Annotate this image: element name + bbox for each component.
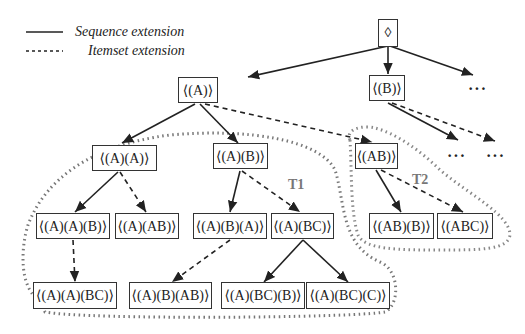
node-A: ⟨(A)⟩ xyxy=(178,77,218,103)
root-symbol: ◊ xyxy=(385,25,392,41)
node-A-AB: ⟨(A)(AB)⟩ xyxy=(115,213,179,239)
legend-sequence-label: Sequence extension xyxy=(75,24,184,40)
ellipsis-b-itemset: ··· xyxy=(486,147,505,165)
node-root: ◊ xyxy=(378,19,398,47)
node-A-BC-B: ⟨(A)(BC)(B)⟩ xyxy=(221,282,305,309)
node-AB-B: ⟨(AB)(B)⟩ xyxy=(369,213,434,239)
node-A-A: ⟨(A)(A)⟩ xyxy=(92,145,157,171)
subtree-t1-label: T1 xyxy=(288,177,304,193)
node-A-A-B: ⟨(A)(A)(B)⟩ xyxy=(36,213,110,239)
node-ABC: ⟨(ABC)⟩ xyxy=(437,213,493,239)
ellipsis-b-seq: ··· xyxy=(447,147,466,165)
node-A-B-A: ⟨(A)(B)(A)⟩ xyxy=(193,213,267,239)
node-AB-itemset: ⟨(AB)⟩ xyxy=(355,143,398,169)
node-A-BC-C: ⟨(A)(BC)(C)⟩ xyxy=(306,282,390,309)
node-A-BC: ⟨(A)(BC)⟩ xyxy=(271,213,334,239)
legend-itemset-label: Itemset extension xyxy=(88,43,185,59)
node-A-A-BC: ⟨(A)(A)(BC)⟩ xyxy=(33,282,117,309)
node-B: ⟨(B)⟩ xyxy=(369,75,405,101)
node-A-B-AB: ⟨(A)(B)(AB)⟩ xyxy=(129,282,212,309)
ellipsis-root: ··· xyxy=(468,80,487,98)
subtree-t2-label: T2 xyxy=(412,172,428,188)
node-A-B: ⟨(A)(B)⟩ xyxy=(213,143,268,169)
